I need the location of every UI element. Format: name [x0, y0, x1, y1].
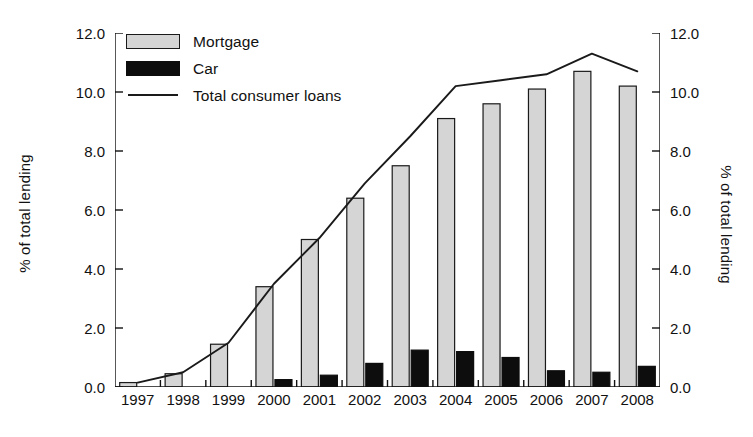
bar-car — [547, 371, 564, 387]
bar-mortgage — [574, 71, 591, 387]
legend-label-mortgage: Mortgage — [193, 33, 259, 51]
y-axis-ticks-right: 0.02.04.06.08.010.012.0 — [666, 0, 718, 437]
x-axis-ticks: 1997199819992000200120022003200420052006… — [115, 392, 660, 418]
y-tick-label-right: 2.0 — [670, 321, 691, 336]
bar-car — [502, 358, 519, 388]
bar-mortgage — [483, 104, 500, 387]
y-tick-label-left: 2.0 — [84, 321, 105, 336]
y-tick-label-left: 0.0 — [84, 380, 105, 395]
bar-car — [366, 363, 383, 387]
bar-car — [320, 375, 337, 387]
y-tick-label-left: 6.0 — [84, 203, 105, 218]
legend-item-mortgage: Mortgage — [126, 28, 341, 55]
legend-item-total-consumer-loans: Total consumer loans — [126, 82, 341, 109]
y-tick-label-left: 4.0 — [84, 262, 105, 277]
legend-label-total-consumer-loans: Total consumer loans — [193, 87, 341, 105]
y-tick-label-right: 12.0 — [670, 26, 699, 41]
y-tick-label-right: 0.0 — [670, 380, 691, 395]
bar-car — [275, 380, 292, 387]
y-axis-title-right: % of total lending — [718, 135, 735, 315]
bar-mortgage — [528, 89, 545, 387]
bar-car — [457, 352, 474, 387]
legend-label-car: Car — [193, 60, 218, 78]
bar-car — [593, 372, 610, 387]
bar-car — [638, 366, 655, 387]
y-axis-title-left: % of total lending — [16, 124, 33, 304]
legend-swatch-car-icon — [126, 61, 180, 76]
bar-car — [411, 350, 428, 387]
legend-line-sample-icon — [126, 88, 180, 103]
legend-swatch-mortgage-icon — [126, 34, 180, 49]
bar-mortgage — [211, 344, 228, 387]
y-tick-label-left: 10.0 — [76, 85, 105, 100]
bar-mortgage — [301, 240, 318, 388]
y-tick-label-left: 8.0 — [84, 144, 105, 159]
y-axis-ticks-left: 0.02.04.06.08.010.012.0 — [57, 0, 109, 437]
bar-mortgage — [392, 166, 409, 387]
bar-mortgage — [619, 86, 636, 387]
y-tick-label-right: 10.0 — [670, 85, 699, 100]
bar-mortgage — [347, 198, 364, 387]
y-tick-label-right: 8.0 — [670, 144, 691, 159]
bar-mortgage — [438, 119, 455, 387]
y-tick-label-right: 6.0 — [670, 203, 691, 218]
x-tick-label: 2008 — [610, 392, 664, 407]
chart-figure: % of total lending % of total lending 0.… — [0, 0, 753, 437]
legend-item-car: Car — [126, 55, 341, 82]
chart-legend: Mortgage Car Total consumer loans — [126, 28, 341, 109]
y-tick-label-left: 12.0 — [76, 26, 105, 41]
bar-mortgage — [256, 287, 273, 387]
y-tick-label-right: 4.0 — [670, 262, 691, 277]
